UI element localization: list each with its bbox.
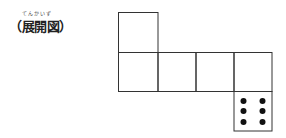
net-square-top — [119, 13, 159, 53]
six-pips-icon — [241, 98, 266, 125]
net-square-row1-col3 — [234, 53, 272, 92]
cube-net-diagram — [0, 0, 286, 138]
net-square-six-face — [234, 92, 272, 132]
net-square-row1-col0 — [119, 53, 159, 92]
net-square-row1-col2 — [196, 53, 234, 92]
net-square-row1-col1 — [158, 53, 196, 92]
